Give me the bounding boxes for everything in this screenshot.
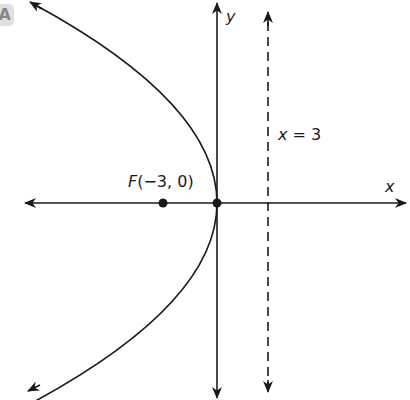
focus-point: [159, 199, 168, 208]
y-axis-label: y: [225, 7, 236, 26]
vertex-point: [213, 199, 222, 208]
parabola-diagram: y x F(−3, 0) x = 3: [0, 0, 410, 400]
focus-label-coords: (−3, 0): [137, 172, 193, 191]
directrix-label-var: x: [277, 125, 288, 144]
x-axis-label: x: [384, 177, 395, 196]
directrix-label-value: = 3: [287, 125, 321, 144]
parabola-curve: [28, 2, 217, 400]
focus-label: F(−3, 0): [128, 172, 194, 191]
directrix-label: x = 3: [277, 125, 321, 144]
